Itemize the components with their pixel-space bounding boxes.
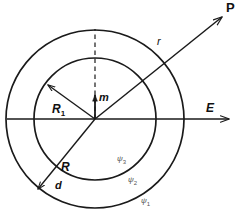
- potential-region-1-label: ψ1: [141, 197, 150, 207]
- psi-subscript-1: 1: [147, 201, 150, 207]
- point-p-label: P: [226, 1, 235, 14]
- potential-region-3-label: ψ3: [117, 155, 126, 165]
- outer-radius-shell-arrow: [38, 119, 95, 189]
- dipole-moment-label: m: [99, 92, 109, 103]
- outer-radius-label: R: [61, 161, 70, 173]
- potential-region-2-label: ψ2: [128, 176, 137, 186]
- inner-radius-symbol: R: [52, 102, 61, 116]
- electric-field-label: E: [206, 102, 214, 114]
- inner-radius-label: R1: [52, 103, 65, 118]
- inner-radius-subscript: 1: [61, 109, 65, 118]
- distance-r-label: r: [157, 36, 161, 47]
- shell-thickness-label: d: [55, 180, 62, 191]
- psi-subscript-3: 3: [123, 159, 126, 165]
- physics-diagram: P E r m R1 R d ψ3 ψ2 ψ1: [0, 0, 245, 216]
- psi-subscript-2: 2: [134, 180, 137, 186]
